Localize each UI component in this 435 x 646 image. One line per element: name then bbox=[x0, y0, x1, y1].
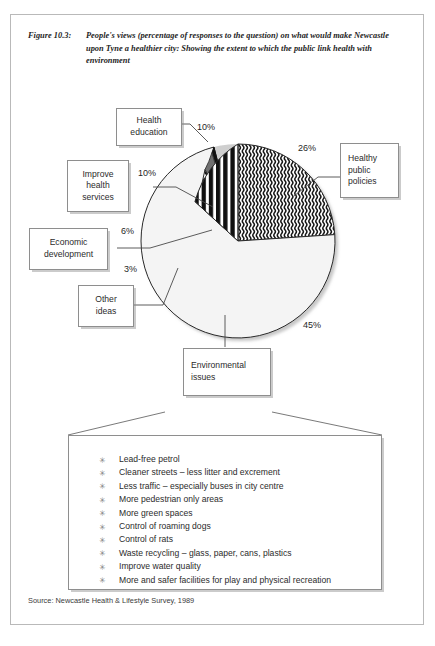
bullet-star-icon: ✳ bbox=[99, 454, 106, 467]
detail-bullet-item: ✳More pedestrian only areas bbox=[99, 493, 381, 506]
detail-bullet-label: More pedestrian only areas bbox=[119, 494, 223, 504]
callout-environmental-issues-label: Environmental issues bbox=[191, 360, 263, 383]
pct-improve-health-services: 10% bbox=[138, 168, 156, 178]
detail-bullet-item: ✳Cleaner streets – less litter and excre… bbox=[99, 466, 381, 479]
detail-bullet-label: Less traffic – especially buses in city … bbox=[119, 481, 284, 491]
callout-environmental-issues[interactable]: Environmental issues bbox=[183, 348, 271, 396]
detail-bullet-item: ✳More green spaces bbox=[99, 507, 381, 520]
callout-health-education[interactable]: Health education bbox=[116, 108, 182, 146]
leader-detail-right bbox=[272, 412, 382, 435]
pct-economic-development: 6% bbox=[121, 226, 134, 236]
detail-bullet-item: ✳More and safer facilities for play and … bbox=[99, 574, 381, 587]
detail-bullet-label: Lead-free petrol bbox=[119, 454, 180, 464]
pct-other-ideas: 3% bbox=[124, 264, 137, 274]
bullet-star-icon: ✳ bbox=[99, 521, 106, 534]
detail-bullet-list: ✳Lead-free petrol✳Cleaner streets – less… bbox=[69, 436, 381, 587]
callout-other-ideas-label: Other ideas bbox=[95, 294, 117, 317]
bullet-star-icon: ✳ bbox=[99, 494, 106, 507]
pct-health-education: 10% bbox=[197, 122, 215, 132]
detail-bullet-item: ✳Control of roaming dogs bbox=[99, 520, 381, 533]
source-note: Source: Newcastle Health & Lifestyle Sur… bbox=[28, 596, 194, 605]
detail-bullet-label: Cleaner streets – less litter and excrem… bbox=[119, 467, 280, 477]
bullet-star-icon: ✳ bbox=[99, 480, 106, 493]
detail-bullet-item: ✳Control of rats bbox=[99, 533, 381, 546]
callout-improve-health-services[interactable]: Improve health services bbox=[67, 160, 129, 212]
detail-bullet-item: ✳Waste recycling – glass, paper, cans, p… bbox=[99, 547, 381, 560]
leader-detail-left bbox=[68, 412, 165, 435]
bullet-star-icon: ✳ bbox=[99, 534, 106, 547]
detail-bullet-label: Improve water quality bbox=[119, 561, 201, 571]
detail-bullet-label: Waste recycling – glass, paper, cans, pl… bbox=[119, 548, 292, 558]
callout-improve-health-services-label: Improve health services bbox=[82, 169, 114, 204]
bullet-star-icon: ✳ bbox=[99, 561, 106, 574]
callout-economic-development[interactable]: Economic development bbox=[29, 228, 108, 270]
pie-slice-healthy-public-policies bbox=[238, 144, 335, 241]
bullet-star-icon: ✳ bbox=[99, 574, 106, 587]
environmental-issues-detail-box: ✳Lead-free petrol✳Cleaner streets – less… bbox=[68, 435, 382, 590]
bullet-star-icon: ✳ bbox=[99, 467, 106, 480]
detail-bullet-item: ✳Less traffic – especially buses in city… bbox=[99, 480, 381, 493]
callout-healthy-public-policies-label: Healthy public policies bbox=[348, 153, 391, 188]
bullet-star-icon: ✳ bbox=[99, 547, 106, 560]
detail-bullet-item: ✳Improve water quality bbox=[99, 560, 381, 573]
detail-bullet-label: Control of roaming dogs bbox=[119, 521, 211, 531]
detail-bullet-label: Control of rats bbox=[119, 534, 173, 544]
callout-health-education-label: Health education bbox=[130, 115, 167, 138]
callout-other-ideas[interactable]: Other ideas bbox=[78, 285, 134, 327]
bullet-star-icon: ✳ bbox=[99, 507, 106, 520]
callout-healthy-public-policies[interactable]: Healthy public policies bbox=[340, 143, 399, 198]
pct-environmental-issues: 45% bbox=[303, 320, 321, 330]
pct-healthy-public-policies: 26% bbox=[298, 143, 316, 153]
callout-economic-development-label: Economic development bbox=[44, 237, 93, 260]
detail-bullet-label: More and safer facilities for play and p… bbox=[119, 575, 331, 585]
detail-bullet-label: More green spaces bbox=[119, 508, 193, 518]
detail-bullet-item: ✳Lead-free petrol bbox=[99, 453, 381, 466]
